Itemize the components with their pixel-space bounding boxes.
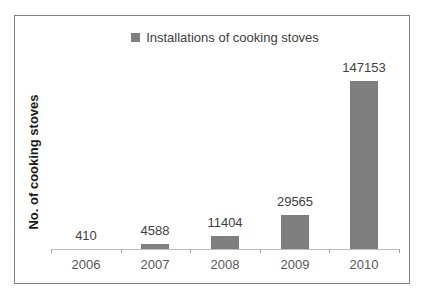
data-label-2006: 410 [51, 228, 121, 243]
category-label-2006: 2006 [51, 257, 121, 272]
bar-2008 [211, 236, 239, 249]
x-axis-tick [260, 249, 261, 253]
data-label-2009: 29565 [260, 194, 330, 209]
data-label-2008: 11404 [190, 215, 260, 230]
x-axis-tick [190, 249, 191, 253]
x-axis-tick [51, 249, 52, 253]
y-axis-title: No. of cooking stoves [26, 94, 41, 229]
category-label-2007: 2007 [120, 257, 190, 272]
data-label-2007: 4588 [120, 223, 190, 238]
category-label-2008: 2008 [190, 257, 260, 272]
x-axis-line [51, 249, 399, 250]
bar-chart-screenshot: Installations of cooking stoves No. of c… [0, 0, 425, 297]
legend-label: Installations of cooking stoves [146, 30, 319, 45]
x-axis-tick [329, 249, 330, 253]
legend-marker-icon [131, 33, 140, 42]
x-axis-tick [121, 249, 122, 253]
bar-2010 [350, 81, 378, 249]
chart-frame: Installations of cooking stoves No. of c… [14, 15, 410, 284]
category-label-2009: 2009 [260, 257, 330, 272]
category-label-2010: 2010 [329, 257, 399, 272]
data-label-2010: 147153 [329, 60, 399, 75]
chart-legend: Installations of cooking stoves [51, 29, 399, 45]
bar-2009 [281, 215, 309, 249]
x-axis-tick [399, 249, 400, 253]
